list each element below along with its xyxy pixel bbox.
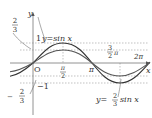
svg-text:3: 3: [113, 100, 117, 108]
label-two-thirds-sin-x: y= 2 3 sin x: [95, 92, 139, 108]
svg-text:3: 3: [108, 44, 112, 52]
y-axis-label: y: [27, 9, 33, 18]
svg-text:2: 2: [108, 52, 112, 60]
svg-text:2: 2: [61, 72, 65, 80]
sine-graph: y x O 2 3 1 −1 − 2 3 y=sin x π 2 π 3 2 π…: [0, 0, 152, 118]
svg-text:3: 3: [13, 26, 17, 34]
svg-text:−: −: [7, 93, 13, 101]
svg-text:2: 2: [13, 17, 17, 25]
svg-text:sin x: sin x: [120, 95, 139, 104]
tick-label-3pi-over-2: 3 2 π: [107, 44, 119, 60]
tick-label-1: 1: [36, 34, 41, 43]
tick-label-2pi: 2π: [133, 53, 143, 61]
origin-label: O: [34, 65, 41, 74]
svg-text:2: 2: [113, 92, 117, 100]
tick-label-pi: π: [88, 65, 95, 74]
svg-text:2: 2: [20, 88, 24, 96]
svg-text:y=: y=: [95, 95, 107, 104]
svg-text:π: π: [113, 49, 119, 57]
leader-lines: [13, 17, 121, 97]
tick-label-neg-1: −1: [37, 82, 49, 91]
x-axis-label: x: [146, 66, 151, 75]
tick-label-neg-2-3: − 2 3: [7, 88, 25, 105]
svg-text:π: π: [60, 64, 66, 72]
label-sin-x: y=sin x: [41, 34, 73, 43]
tick-label-2-3: 2 3: [12, 17, 18, 34]
svg-text:3: 3: [20, 97, 24, 105]
leader-2-3: [13, 33, 31, 49]
tick-label-pi-over-2: π 2: [60, 64, 66, 80]
